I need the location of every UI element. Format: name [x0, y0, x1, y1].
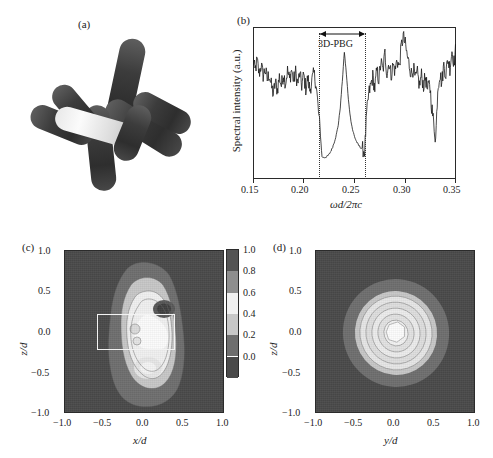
xtick-label-1: 0.20: [291, 184, 309, 195]
panel-d-ylabel: z/d: [267, 329, 279, 369]
panel-d-xtick--0.5: −0.5: [344, 417, 362, 428]
panel-c-ytick--1.0: −1.0: [31, 407, 49, 418]
panel-d-contour-yz: (d) z/d 1.0 0.5 0.0 −0.5 −1.0 −1.0 −0.5 …: [243, 225, 493, 458]
panel-b-spectrum: (b) Spectral intensity (a.u.) 3D-PBG 0.1…: [210, 0, 493, 220]
panel-d-xtick-1.0: 1.0: [467, 417, 480, 428]
panel-d-contours: [316, 251, 475, 413]
panel-d-ytick-0.5: 0.5: [289, 285, 302, 296]
panel-c-xtick-0.5: 0.5: [176, 417, 189, 428]
panel-d-xtick-0.0: 0.0: [387, 417, 400, 428]
panel-c-map: [64, 250, 224, 413]
panel-d-xtick--1.0: −1.0: [304, 417, 322, 428]
xtick-label-2: 0.25: [342, 184, 360, 195]
panel-d-map: [315, 250, 475, 413]
panel-c-label: (c): [22, 241, 34, 253]
panel-c-ytick-1.0: 1.0: [38, 245, 51, 256]
panel-c-ytick-0.5: 0.5: [38, 285, 51, 296]
panel-c-ylabel: z/d: [17, 329, 29, 369]
rod-cluster: [0, 0, 210, 210]
tick-x0: [253, 179, 254, 183]
spectrum-curve: [253, 27, 456, 179]
panel-d-ytick-0.0: 0.0: [289, 326, 302, 337]
panel-d-xtick-0.5: 0.5: [427, 417, 440, 428]
panel-c-xtick-0.0: 0.0: [136, 417, 149, 428]
panel-b-label: (b): [237, 14, 250, 26]
panel-c-ytick--0.5: −0.5: [31, 367, 49, 378]
pbg-left-guide: [319, 33, 320, 179]
tick-x1: [303, 179, 304, 183]
panel-c-ytick-0.0: 0.0: [38, 326, 51, 337]
panel-c-xlabel: x/d: [133, 434, 146, 446]
tick-x2: [354, 179, 355, 183]
panel-d-ytick--1.0: −1.0: [282, 407, 300, 418]
panel-b-xlabel: ωd/2πc: [330, 198, 362, 210]
panel-d-xlabel: y/d: [384, 434, 397, 446]
xtick-label-0: 0.15: [241, 184, 259, 195]
panel-c-contour-xz: (c) z/d 1.0 0.5 0.0 −0.5 −1.0: [0, 225, 250, 458]
panel-c-roi-rectangle: [97, 314, 175, 350]
panel-a-rod-structure: (a): [0, 0, 210, 210]
pbg-label: 3D-PBG: [318, 38, 353, 49]
panel-d-ytick--0.5: −0.5: [282, 367, 300, 378]
xtick-label-4: 0.35: [443, 184, 461, 195]
panel-c-xtick-1.0: 1.0: [216, 417, 229, 428]
tick-x3: [405, 179, 406, 183]
pbg-right-guide: [365, 33, 366, 179]
panel-c-xtick--0.5: −0.5: [93, 417, 111, 428]
panel-c-xtick--1.0: −1.0: [53, 417, 71, 428]
tick-x4: [455, 179, 456, 183]
panel-d-label: (d): [273, 241, 286, 253]
panel-b-ylabel: Spectral intensity (a.u.): [230, 31, 242, 171]
panel-d-ytick-1.0: 1.0: [289, 245, 302, 256]
xtick-label-3: 0.30: [393, 184, 411, 195]
